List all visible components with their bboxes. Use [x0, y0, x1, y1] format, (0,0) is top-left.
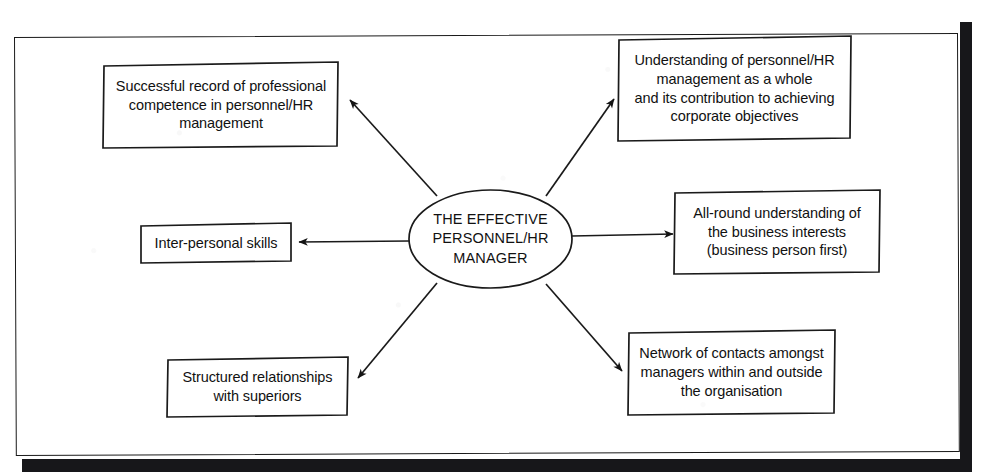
node-label-understanding-hr-whole: Understanding of personnel/HR management…	[618, 37, 851, 140]
figure-page: Successful record of professional compet…	[0, 0, 984, 473]
node-label-center: THE EFFECTIVE PERSONNEL/HR MANAGER	[409, 190, 572, 288]
connector-center-to-network-of-contacts	[546, 284, 622, 371]
node-label-network-of-contacts: Network of contacts amongst managers wit…	[628, 331, 835, 414]
node-label-structured-relationships: Structured relationships with superiors	[167, 358, 348, 416]
connector-center-to-structured-relationships	[358, 283, 437, 378]
node-label-inter-personal-skills: Inter-personal skills	[141, 224, 291, 262]
node-label-all-round-business: All-round understanding of the business …	[674, 191, 880, 273]
connector-center-to-inter-personal-skills	[299, 241, 409, 242]
connector-center-to-successful-record	[350, 100, 437, 196]
connector-center-to-all-round-business	[572, 234, 673, 236]
connector-center-to-understanding-hr-whole	[546, 99, 614, 196]
node-label-successful-record: Successful record of professional compet…	[104, 63, 338, 147]
